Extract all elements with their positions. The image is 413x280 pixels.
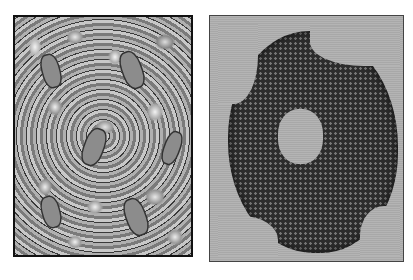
protein-ring-model-image [209,15,404,262]
figure-caption-cropped [0,274,413,280]
channel [121,197,150,237]
channel [79,127,108,167]
channel [39,53,63,88]
channel [39,195,62,228]
channel [117,50,146,90]
lattice-surface-image [13,15,193,257]
central-pore [278,109,323,164]
channel [160,131,184,166]
